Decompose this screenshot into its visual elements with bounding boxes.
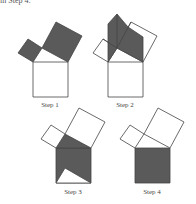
step-2-label: Step 2 <box>116 101 134 109</box>
step-1-label: Step 1 <box>41 101 59 109</box>
step-4-label: Step 4 <box>143 188 161 196</box>
step-3-figure <box>41 108 105 183</box>
step-2-figure <box>93 14 157 97</box>
step-3-label: Step 3 <box>64 188 82 196</box>
step-1-figure <box>18 22 82 97</box>
pythagorean-proof-diagram <box>0 0 196 204</box>
step-4-figure <box>120 108 184 183</box>
